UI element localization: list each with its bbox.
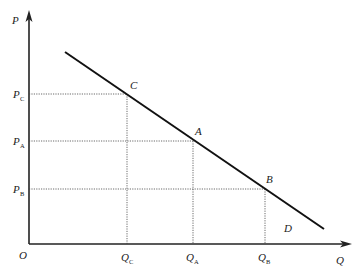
svg-text:P: P — [12, 183, 20, 195]
svg-text:B: B — [20, 190, 25, 197]
origin-label: O — [19, 249, 27, 261]
demand-diagram: P Q O C A B D P C P A P B Q C Q A Q B — [0, 0, 361, 276]
svg-text:Q: Q — [186, 251, 194, 263]
svg-text:C: C — [20, 95, 24, 102]
svg-text:Q: Q — [121, 251, 129, 263]
point-c-label: C — [130, 79, 138, 91]
qty-label-qb: Q B — [258, 251, 271, 265]
svg-text:Q: Q — [258, 251, 266, 263]
demand-line — [65, 52, 324, 229]
svg-text:P: P — [12, 88, 20, 100]
price-label-pa: P A — [12, 135, 25, 149]
svg-text:P: P — [12, 135, 20, 147]
qty-label-qc: Q C — [121, 251, 133, 265]
svg-text:B: B — [266, 258, 271, 265]
region-d-label: D — [283, 222, 292, 234]
x-axis-label: Q — [336, 254, 344, 266]
qty-label-qa: Q A — [186, 251, 199, 265]
y-axis-label: P — [11, 14, 19, 26]
svg-text:A: A — [20, 142, 25, 149]
guide-lines — [29, 94, 265, 244]
svg-text:C: C — [129, 258, 133, 265]
price-label-pc: P C — [12, 88, 24, 102]
point-b-label: B — [266, 173, 273, 185]
price-label-pb: P B — [12, 183, 25, 197]
point-a-label: A — [194, 125, 202, 137]
svg-text:A: A — [194, 258, 199, 265]
